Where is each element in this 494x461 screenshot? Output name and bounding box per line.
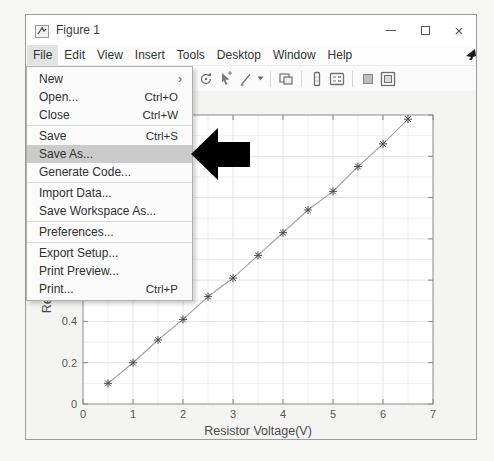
menu-item-close[interactable]: CloseCtrl+W [27, 106, 192, 124]
toolbar-separator [270, 71, 271, 87]
menu-item-label: Export Setup... [39, 246, 184, 260]
menubar-item-view[interactable]: View [91, 45, 129, 65]
data-marker [229, 274, 237, 282]
menu-separator [27, 125, 192, 126]
data-marker [354, 163, 362, 171]
data-marker [154, 336, 162, 344]
brush-icon[interactable] [236, 69, 256, 88]
menubar-item-edit[interactable]: Edit [58, 45, 91, 65]
data-cursor-icon[interactable] [216, 69, 236, 88]
menu-item-export-setup[interactable]: Export Setup... [27, 244, 192, 262]
menu-item-save[interactable]: SaveCtrl+S [27, 127, 192, 145]
menu-item-shortcut: Ctrl+S [146, 130, 184, 142]
maximize-button[interactable] [408, 15, 442, 45]
menu-item-label: Generate Code... [39, 165, 184, 179]
window-title: Figure 1 [56, 23, 100, 37]
menu-item-label: Import Data... [39, 186, 184, 200]
menubar-item-tools[interactable]: Tools [171, 45, 211, 65]
menu-item-save-workspace-as[interactable]: Save Workspace As... [27, 202, 192, 220]
menu-item-label: Open... [39, 90, 144, 104]
file-menu-dropdown: New›Open...Ctrl+OCloseCtrl+WSaveCtrl+SSa… [26, 66, 193, 301]
menu-item-import-data[interactable]: Import Data... [27, 184, 192, 202]
data-marker [304, 206, 312, 214]
menu-item-print-preview[interactable]: Print Preview... [27, 262, 192, 280]
hide-plot-tools-icon[interactable] [358, 69, 378, 88]
toolbar-separator [352, 71, 353, 87]
y-tick-label: 0.2 [62, 357, 77, 369]
titlebar[interactable]: Figure 1 × [26, 15, 476, 45]
submenu-arrow-icon: › [178, 72, 184, 86]
menu-item-shortcut: Ctrl+P [146, 283, 184, 295]
x-tick-label: 0 [80, 408, 86, 420]
data-marker [179, 315, 187, 323]
menu-separator [27, 242, 192, 243]
data-marker [329, 187, 337, 195]
x-tick-label: 3 [230, 408, 236, 420]
menubar-item-help[interactable]: Help [322, 45, 359, 65]
brush-dropdown-caret[interactable] [256, 69, 265, 88]
menu-item-label: Print... [39, 282, 146, 296]
x-tick-label: 4 [280, 408, 286, 420]
menu-item-label: Save [39, 129, 146, 143]
menubar-item-insert[interactable]: Insert [129, 45, 171, 65]
menu-item-label: New [39, 72, 178, 86]
screenshot-stage: { "window": { "title": "Figure 1", "cont… [0, 0, 494, 461]
x-tick-label: 2 [180, 408, 186, 420]
menu-item-label: Preferences... [39, 225, 184, 239]
data-marker [129, 359, 137, 367]
menubar: FileEditViewInsertToolsDesktopWindowHelp [26, 45, 476, 66]
data-marker [204, 293, 212, 301]
close-icon: × [455, 23, 464, 38]
matlab-figure-icon [35, 24, 49, 37]
minimize-icon [386, 30, 396, 31]
data-marker [254, 251, 262, 259]
menu-item-print[interactable]: Print...Ctrl+P [27, 280, 192, 298]
menu-item-label: Save As... [39, 147, 184, 161]
dock-figure-icon[interactable] [378, 69, 398, 88]
menubar-item-desktop[interactable]: Desktop [211, 45, 267, 65]
menubar-item-window[interactable]: Window [267, 45, 322, 65]
insert-colorbar-icon[interactable] [307, 69, 327, 88]
window-controls: × [374, 15, 476, 45]
rotate-3d-icon[interactable] [196, 69, 216, 88]
close-button[interactable]: × [442, 15, 476, 45]
insert-legend-icon[interactable] [327, 69, 347, 88]
menubar-item-file[interactable]: File [27, 45, 58, 65]
minimize-button[interactable] [374, 15, 408, 45]
maximize-icon [421, 26, 430, 35]
menu-item-save-as[interactable]: Save As... [27, 145, 192, 163]
menu-item-open[interactable]: Open...Ctrl+O [27, 88, 192, 106]
x-tick-label: 7 [430, 408, 436, 420]
menu-item-shortcut: Ctrl+O [144, 91, 184, 103]
y-tick-label: 0.4 [62, 315, 77, 327]
menu-item-label: Close [39, 108, 143, 122]
x-tick-label: 6 [380, 408, 386, 420]
menu-item-new[interactable]: New› [27, 70, 192, 88]
x-axis-label: Resistor Voltage(V) [204, 424, 312, 438]
menu-item-generate-code[interactable]: Generate Code... [27, 163, 192, 181]
menu-item-label: Save Workspace As... [39, 204, 184, 218]
y-tick-label: 0 [71, 398, 77, 410]
toolbar-separator [301, 71, 302, 87]
data-marker [379, 140, 387, 148]
menu-separator [27, 221, 192, 222]
menu-separator [27, 182, 192, 183]
data-marker [279, 229, 287, 237]
menu-item-preferences[interactable]: Preferences... [27, 223, 192, 241]
x-tick-label: 1 [130, 408, 136, 420]
x-tick-label: 5 [330, 408, 336, 420]
menu-item-label: Print Preview... [39, 264, 184, 278]
link-plots-icon[interactable] [276, 69, 296, 88]
data-marker [104, 379, 112, 387]
data-marker [404, 115, 412, 123]
menu-item-shortcut: Ctrl+W [143, 109, 184, 121]
